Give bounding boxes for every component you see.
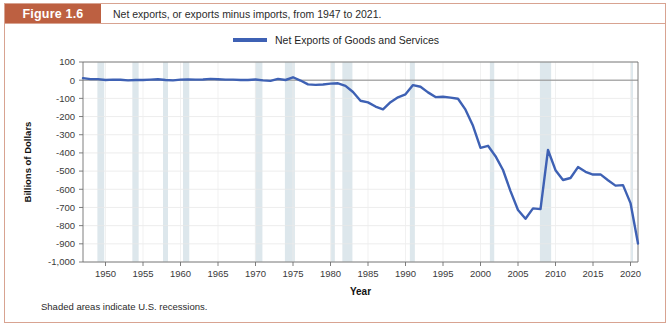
x-tick-label: 1950 (95, 268, 116, 279)
y-tick-label: -100 (56, 93, 75, 104)
recession-band (490, 62, 494, 262)
recession-band (410, 62, 415, 262)
x-tick-label: 1990 (395, 268, 416, 279)
recession-band (631, 62, 633, 262)
x-tick-label: 1975 (282, 268, 303, 279)
x-tick-label: 1965 (207, 268, 228, 279)
y-tick-label: -1,000 (48, 256, 75, 267)
x-tick-label: 2015 (582, 268, 603, 279)
recession-band (342, 62, 352, 262)
figure-container: Figure 1.6 Net exports, or exports minus… (0, 0, 670, 329)
recession-band (163, 62, 168, 262)
x-tick-label: 1980 (320, 268, 341, 279)
y-tick-label: -200 (56, 111, 75, 122)
x-tick-label: 1955 (132, 268, 153, 279)
figure-body: Net Exports of Goods and Services 1000-1… (4, 24, 666, 323)
y-tick-label: 0 (70, 75, 75, 86)
x-tick-label: 2020 (620, 268, 641, 279)
x-tick-label: 2000 (470, 268, 491, 279)
y-tick-label: -400 (56, 147, 75, 158)
figure-number-badge: Figure 1.6 (5, 4, 101, 23)
chart-plot-wrapper: 1000-100-200-300-400-500-600-700-800-900… (5, 24, 667, 323)
figure-footnote: Shaded areas indicate U.S. recessions. (41, 301, 207, 312)
y-tick-label: 100 (59, 56, 75, 67)
y-tick-label: -600 (56, 184, 75, 195)
recession-band (331, 62, 335, 262)
recession-band (255, 62, 263, 262)
y-tick-label: -500 (56, 165, 75, 176)
x-tick-label: 2005 (507, 268, 528, 279)
x-tick-label: 1970 (245, 268, 266, 279)
figure-caption: Net exports, or exports minus imports, f… (101, 4, 665, 23)
y-tick-label: -700 (56, 202, 75, 213)
y-tick-label: -900 (56, 238, 75, 249)
x-tick-label: 1960 (170, 268, 191, 279)
recession-band (183, 62, 189, 262)
y-tick-label: -300 (56, 129, 75, 140)
x-tick-label: 1995 (432, 268, 453, 279)
x-tick-label: 1985 (357, 268, 378, 279)
figure-header: Figure 1.6 Net exports, or exports minus… (4, 3, 666, 24)
recession-band (97, 62, 104, 262)
recession-band (132, 62, 138, 262)
x-axis-title: Year (350, 286, 371, 297)
x-tick-label: 2010 (545, 268, 566, 279)
y-axis-title: Billions of Dollars (22, 122, 33, 203)
y-tick-label: -800 (56, 220, 75, 231)
net-exports-line-chart: 1000-100-200-300-400-500-600-700-800-900… (5, 24, 667, 323)
